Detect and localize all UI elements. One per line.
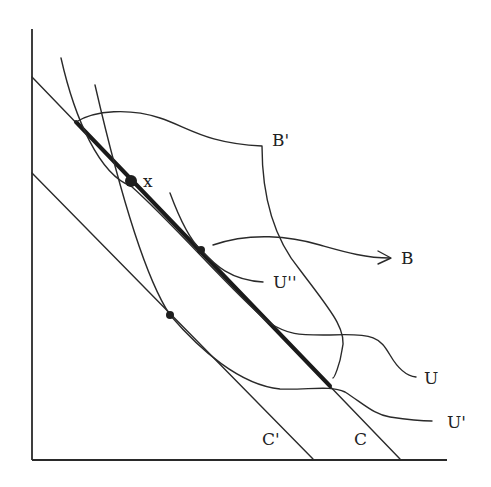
label-b: B	[401, 248, 414, 268]
diagram-canvas: x B' B U'' U U' C' C	[0, 0, 491, 487]
curve-b-prime	[76, 112, 343, 378]
label-u-double-prime: U''	[273, 272, 297, 292]
label-b-prime: B'	[272, 130, 289, 150]
curve-u	[61, 58, 416, 377]
label-u-prime: U'	[447, 412, 466, 432]
tangency-dot-u-double-prime	[197, 246, 205, 254]
label-u: U	[424, 368, 438, 388]
arrow-b-curve	[213, 237, 390, 258]
point-x-dot	[125, 175, 137, 187]
tangency-dot-c-prime	[166, 311, 174, 319]
label-c: C	[354, 429, 367, 449]
label-c-prime: C'	[262, 429, 280, 449]
label-x: x	[143, 171, 153, 191]
